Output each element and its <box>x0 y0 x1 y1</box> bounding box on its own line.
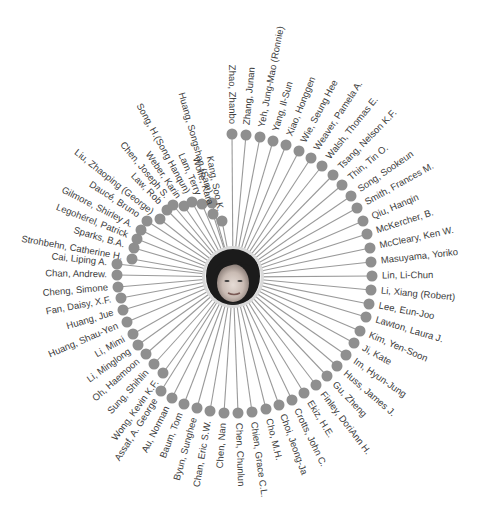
coauthor-label: Chen, Chunlun <box>234 423 247 487</box>
coauthor-node[interactable] <box>233 408 244 419</box>
coauthor-node[interactable] <box>133 340 144 351</box>
coauthor-node[interactable] <box>261 404 272 415</box>
coauthor-node[interactable] <box>364 299 375 310</box>
coauthor-node[interactable] <box>255 132 266 143</box>
coauthor-node[interactable] <box>366 257 377 268</box>
coauthor-node[interactable] <box>112 270 123 281</box>
coauthor-node[interactable] <box>294 146 305 157</box>
coauthor-node[interactable] <box>349 338 360 349</box>
coauthor-node[interactable] <box>136 225 147 236</box>
coauthor-node[interactable] <box>311 380 322 391</box>
coauthor-node[interactable] <box>366 285 377 296</box>
coauthor-node[interactable] <box>247 407 258 418</box>
center-person <box>200 244 266 323</box>
coauthor-node[interactable] <box>217 216 228 227</box>
coauthor-node[interactable] <box>287 395 298 406</box>
coauthor-label: Li, Xiang (Robert) <box>381 284 456 302</box>
coauthor-node[interactable] <box>167 393 178 404</box>
coauthor-node[interactable] <box>268 136 279 147</box>
coauthor-node[interactable] <box>219 408 230 419</box>
coauthor-node[interactable] <box>128 329 139 340</box>
coauthor-node[interactable] <box>227 129 238 140</box>
coauthor-node[interactable] <box>281 140 292 151</box>
coauthor-node[interactable] <box>241 130 252 141</box>
coauthor-node[interactable] <box>322 371 333 382</box>
coauthor-node[interactable] <box>179 399 190 410</box>
coauthor-node[interactable] <box>158 368 169 379</box>
coauthor-node[interactable] <box>149 359 160 370</box>
coauthor-node[interactable] <box>113 282 124 293</box>
coauthor-node[interactable] <box>122 317 133 328</box>
coauthor-node[interactable] <box>362 229 373 240</box>
coauthor-node[interactable] <box>355 326 366 337</box>
coauthor-node[interactable] <box>341 350 352 361</box>
coauthor-node[interactable] <box>306 153 317 164</box>
coauthor-node[interactable] <box>332 361 343 372</box>
coauthor-node[interactable] <box>317 161 328 172</box>
coauthor-node[interactable] <box>365 243 376 254</box>
coauthor-node[interactable] <box>352 203 363 214</box>
coauthor-node[interactable] <box>116 293 127 304</box>
coauthor-node[interactable] <box>142 216 153 227</box>
coauthor-node[interactable] <box>346 191 357 202</box>
face-shape <box>217 264 249 302</box>
coauthor-node[interactable] <box>299 388 310 399</box>
coauthor-node[interactable] <box>118 305 129 316</box>
coauthor-radial-diagram: Zhao, ZhanboZhang, JunanYeh, Jung-Mao (R… <box>0 0 486 527</box>
coauthor-node[interactable] <box>187 197 198 208</box>
coauthor-label: Chen, Nan <box>214 423 228 469</box>
coauthor-label: Chan, Andrew. <box>45 267 107 279</box>
coauthor-node[interactable] <box>358 216 369 227</box>
coauthor-node[interactable] <box>205 406 216 417</box>
coauthor-node[interactable] <box>367 271 378 282</box>
coauthor-node[interactable] <box>328 170 339 181</box>
coauthor-node[interactable] <box>127 254 138 265</box>
coauthor-label: Chien, Grace C.L. <box>249 421 270 498</box>
coauthor-label: Zhao, Zhanbo <box>227 65 238 124</box>
coauthor-node[interactable] <box>274 400 285 411</box>
coauthor-node[interactable] <box>141 349 152 360</box>
coauthor-node[interactable] <box>361 312 372 323</box>
portrait-photo <box>200 244 266 323</box>
coauthor-label: Masuyama, Yoriko <box>380 246 458 265</box>
coauthor-node[interactable] <box>192 403 203 414</box>
coauthor-node[interactable] <box>155 214 166 225</box>
coauthor-node[interactable] <box>168 200 179 211</box>
coauthor-node[interactable] <box>337 180 348 191</box>
coauthor-label: Lin, Li-Chun <box>382 269 433 280</box>
coauthor-label: Zhang, Junan <box>240 67 256 126</box>
